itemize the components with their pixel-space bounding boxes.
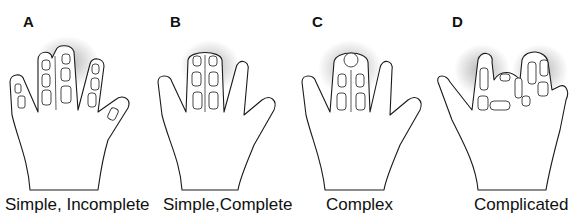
panel-caption: Simple,Complete: [163, 195, 292, 215]
panel-b: B Simple,Complete: [145, 0, 290, 221]
panel-letter: A: [23, 13, 34, 30]
panel-letter: C: [312, 13, 323, 30]
panel-caption: Complex: [326, 195, 393, 215]
panel-a: A Simple, Incomplete: [0, 0, 145, 221]
panel-d: D Complicated: [430, 0, 580, 221]
panel-letter: D: [452, 13, 463, 30]
panel-caption: Complicated: [474, 195, 569, 215]
panel-caption: Simple, Incomplete: [5, 195, 150, 215]
panel-c: C Complex: [290, 0, 435, 221]
panel-letter: B: [170, 13, 181, 30]
